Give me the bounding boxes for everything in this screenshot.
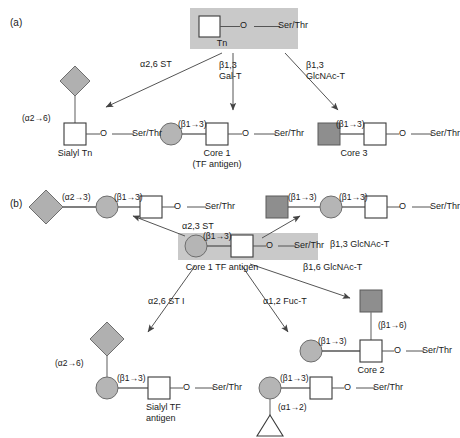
- linkage-label-a2-3: (α2→3): [62, 192, 91, 202]
- o-linkage-label: O: [399, 128, 406, 139]
- linkage-label-b1-6: (β1→6): [378, 320, 407, 330]
- enzyme-label-b13galt-line2: Gal-T: [219, 71, 242, 82]
- enzyme-label-b13glcnact-b: β1,3 GlcNAc-T: [330, 239, 389, 250]
- glcnac-square: [266, 196, 288, 218]
- serthr-label: Ser/Thr: [132, 128, 162, 139]
- enzyme-label-a26sti: α2,6 ST I: [148, 296, 185, 307]
- serthr-label: Ser/Thr: [278, 20, 308, 31]
- linkage-label-b1-3: (β1→3): [117, 373, 146, 383]
- structure-name-core-1-sub: (TF antigen): [192, 159, 241, 170]
- o-linkage-label: O: [183, 382, 190, 393]
- linkage-label-a2-6: (α2→6): [22, 113, 51, 123]
- serthr-label: Ser/Thr: [373, 382, 403, 393]
- galactose-circle: [259, 377, 281, 399]
- serthr-label: Ser/Thr: [294, 240, 324, 251]
- galnac-square: [231, 235, 253, 257]
- o-linkage-label: O: [240, 20, 247, 31]
- glcnac-square: [360, 290, 382, 312]
- linkage-label-a1-2: (α1→2): [278, 402, 307, 412]
- structure-name-core-2: Core 2: [357, 365, 384, 376]
- enzyme-label-b13galt-line1: β1,3: [219, 60, 237, 71]
- structure-name-core1-tf-antigen: Core 1 TF antigen: [186, 262, 258, 273]
- o-linkage-label: O: [344, 382, 351, 393]
- o-linkage-label: O: [242, 128, 249, 139]
- linkage-label-b1-3: (β1→3): [318, 336, 347, 346]
- panel-letter-b: (b): [10, 198, 22, 210]
- serthr-label: Ser/Thr: [422, 345, 452, 356]
- structure-sialyl-tn: [60, 66, 134, 145]
- linkage-label-a2-6: (α2→6): [55, 358, 84, 368]
- serthr-label: Ser/Thr: [430, 201, 460, 212]
- sialic-acid-diamond: [29, 190, 63, 224]
- sialic-acid-diamond: [90, 322, 124, 356]
- galnac-square: [365, 196, 387, 218]
- galnac-square: [64, 123, 86, 145]
- galnac-square: [364, 123, 386, 145]
- o-linkage-label: O: [399, 201, 406, 212]
- o-linkage-label: O: [394, 345, 401, 356]
- linkage-label-b1-3: (β1→3): [203, 231, 232, 241]
- enzyme-label-a26st: α2,6 ST: [140, 59, 172, 70]
- structure-name-tn: Tn: [217, 38, 228, 49]
- o-linkage-label: O: [100, 128, 107, 139]
- enzyme-label-b13glcnact-line1: β1,3: [306, 60, 324, 71]
- structure-name-sialyl-tf-line1: Sialyl TF: [146, 402, 181, 413]
- linkage-label-b1-3: (β1→3): [178, 119, 207, 129]
- structure-name-sialyl-tn: Sialyl Tn: [58, 148, 92, 159]
- galnac-square: [310, 377, 332, 399]
- serthr-label: Ser/Thr: [430, 128, 460, 139]
- o-linkage-label: O: [174, 201, 181, 212]
- serthr-label: Ser/Thr: [274, 128, 304, 139]
- structure-fucosylated-core1: [257, 377, 375, 436]
- sialic-acid-diamond: [60, 66, 90, 96]
- structure-name-core-3: Core 3: [340, 148, 367, 159]
- enzyme-label-b16glcnact: β1,6 GlcNAc-T: [303, 262, 362, 273]
- serthr-label: Ser/Thr: [205, 201, 235, 212]
- linkage-label-b1-3: (β1→3): [114, 192, 143, 202]
- linkage-label-b1-3: (β1→3): [288, 192, 317, 202]
- enzyme-label-b13glcnact-line2: GlcNAc-T: [306, 71, 345, 82]
- enzyme-label-a12fuct: α1,2 Fuc-T: [263, 296, 307, 307]
- linkage-label-b1-3: (β1→3): [280, 373, 309, 383]
- linkage-label-b1-3: (β1→3): [339, 192, 368, 202]
- o-linkage-label: O: [266, 240, 273, 251]
- fucose-triangle: [257, 415, 283, 436]
- linkage-label-b1-3: (β1→3): [336, 119, 365, 129]
- galnac-square: [199, 16, 220, 37]
- structure-sialyl-tf-antigen: [90, 322, 214, 399]
- galactose-circle: [96, 377, 118, 399]
- galnac-square: [148, 377, 170, 399]
- serthr-label: Ser/Thr: [212, 382, 242, 393]
- galnac-square: [140, 196, 162, 218]
- structure-name-core-1: Core 1: [203, 148, 230, 159]
- structure-name-sialyl-tf-line2: antigen: [146, 413, 176, 424]
- galnac-square: [360, 340, 382, 362]
- arrow-a23st: [133, 216, 185, 236]
- panel-letter-a: (a): [10, 17, 22, 29]
- galnac-square: [206, 123, 228, 145]
